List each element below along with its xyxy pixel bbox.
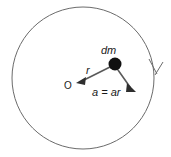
body-circle bbox=[12, 7, 154, 149]
rotation-direction-arrowhead-icon bbox=[149, 59, 163, 75]
mass-element-label: dm bbox=[101, 44, 116, 56]
acceleration-arrowhead-icon bbox=[126, 83, 136, 92]
acceleration-label: a = ar bbox=[92, 86, 122, 98]
origin-label: O bbox=[64, 80, 72, 91]
mass-element-dot bbox=[109, 58, 122, 71]
radius-vector-label: r bbox=[86, 64, 91, 76]
figure-canvas: dm r O a = ar bbox=[0, 0, 171, 157]
radius-arrowhead-icon bbox=[76, 77, 86, 85]
physics-figure: dm r O a = ar bbox=[0, 0, 171, 157]
